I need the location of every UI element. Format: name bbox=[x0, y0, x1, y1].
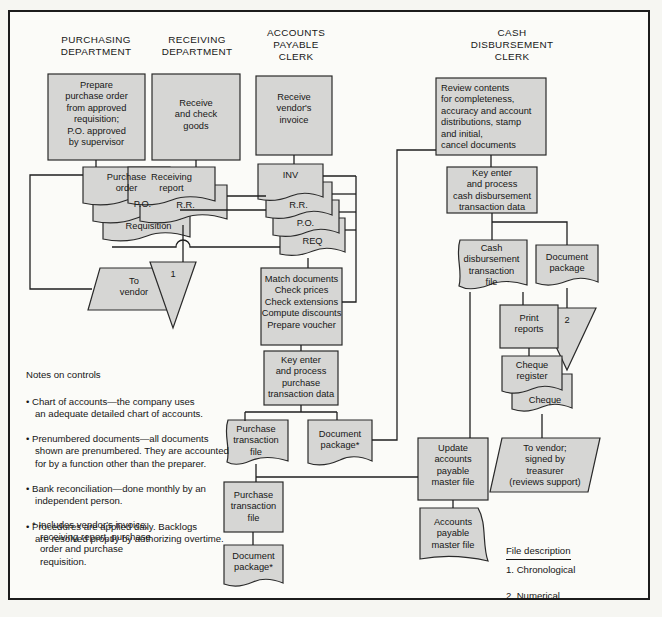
label-cash-disb-file: Cash disbursement transaction file bbox=[456, 243, 527, 289]
label-rr-copy: R.R. bbox=[142, 200, 229, 211]
label-inv: INV bbox=[258, 170, 323, 181]
label-cheque: Cheque bbox=[515, 395, 575, 406]
label-print-reports: Print reports bbox=[500, 313, 558, 336]
label-to-vendor-treasurer: To vendor; signed by treasurer (reviews … bbox=[491, 443, 599, 489]
label-update-ap-master: Update accounts payable master file bbox=[418, 443, 488, 489]
label-doc-package-cd: Document package bbox=[536, 252, 598, 275]
file-description-item: 1. Chronological bbox=[506, 563, 616, 577]
label-req: REQ bbox=[280, 236, 345, 247]
label-file-1: 1 bbox=[150, 269, 196, 280]
label-ap-master-file: Accounts payable master file bbox=[420, 517, 486, 551]
label-receive-goods: Receive and check goods bbox=[152, 98, 240, 132]
flowchart-page: PURCHASING DEPARTMENT RECEIVING DEPARTME… bbox=[0, 0, 662, 617]
connector-package-to-review bbox=[372, 150, 436, 440]
file-description-item: 2. Numerical bbox=[506, 589, 616, 603]
label-rr-2: R.R. bbox=[266, 200, 331, 211]
label-match-documents: Match documents Check prices Check exten… bbox=[261, 274, 342, 331]
label-requisition: Requisition bbox=[105, 221, 192, 232]
connector-ptf1-down-and-update bbox=[256, 464, 418, 482]
label-doc-package-1: Document package* bbox=[308, 429, 372, 452]
connector-requisition-to-req bbox=[112, 240, 280, 247]
file-description: File description 1. Chronological 2. Num… bbox=[506, 532, 616, 616]
header-cd-clerk: CASH DISBURSEMENT CLERK bbox=[452, 27, 572, 63]
label-prepare-po: Prepare purchase order from approved req… bbox=[48, 80, 145, 148]
label-receiving-report: Receiving report bbox=[128, 172, 215, 195]
notes-title: Notes on controls bbox=[26, 369, 264, 381]
label-key-enter-purchase: Key enter and process purchase transacti… bbox=[264, 355, 338, 401]
label-key-enter-cd: Key enter and process cash disbursement … bbox=[447, 168, 537, 214]
note-item: • Prenumbered documents—all documents sh… bbox=[26, 433, 264, 470]
label-cheque-register: Cheque register bbox=[502, 360, 562, 383]
label-po-2: P.O. bbox=[273, 218, 338, 229]
note-item: • Bank reconciliation—done monthly by an… bbox=[26, 483, 264, 507]
label-receive-invoice: Receive vendor's invoice bbox=[256, 92, 332, 126]
footnote: * Includes vendor's invoice, receiving r… bbox=[32, 519, 200, 568]
header-ap-clerk: ACCOUNTS PAYABLE CLERK bbox=[236, 27, 356, 63]
label-review-contents: Review contents for completeness, accura… bbox=[441, 83, 545, 151]
note-item: • Chart of accounts—the company uses an … bbox=[26, 396, 264, 420]
file-description-title: File description bbox=[506, 544, 571, 560]
